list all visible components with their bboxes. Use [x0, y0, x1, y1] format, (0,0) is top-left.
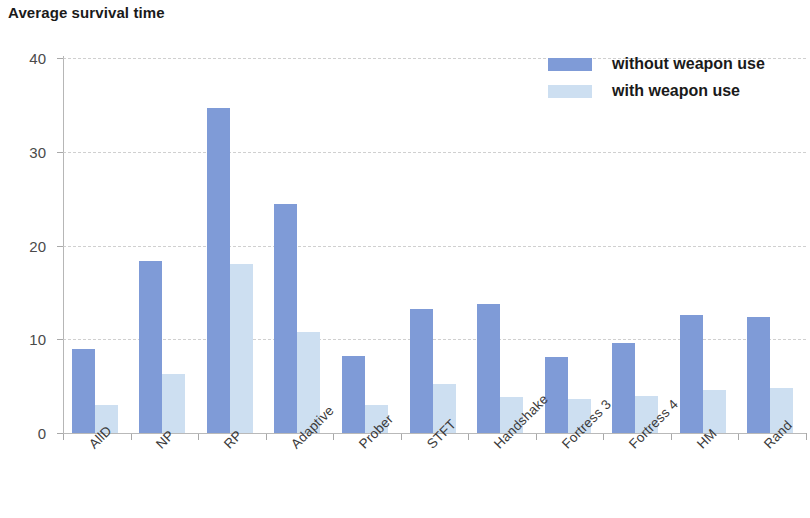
x-tick-mark-1: [131, 433, 132, 440]
bar-np-series-1[interactable]: [162, 374, 185, 433]
bar-np-series-0[interactable]: [139, 261, 162, 434]
legend-label-without-weapon-use: without weapon use: [612, 55, 765, 73]
x-tick-mark-0: [63, 433, 64, 440]
legend-item-series-1[interactable]: with weapon use: [548, 79, 765, 103]
y-tick-label-40: 40: [0, 50, 46, 67]
bar-hm-series-1[interactable]: [703, 390, 726, 433]
x-tick-mark-6: [468, 433, 469, 440]
bar-rp-series-1[interactable]: [230, 264, 253, 433]
bar-handshake-series-0[interactable]: [477, 304, 500, 433]
x-tick-mark-3: [266, 433, 267, 440]
x-tick-mark-9: [671, 433, 672, 440]
bar-rp-series-0[interactable]: [207, 108, 230, 433]
bar-stft-series-0[interactable]: [410, 309, 433, 433]
x-tick-mark-8: [603, 433, 604, 440]
plot-area: [63, 58, 806, 433]
bar-prober-series-0[interactable]: [342, 356, 365, 433]
y-tick-label-20: 20: [0, 237, 46, 254]
y-tick-label-30: 30: [0, 143, 46, 160]
x-tick-mark-10: [738, 433, 739, 440]
x-tick-mark-7: [536, 433, 537, 440]
x-tick-mark-5: [401, 433, 402, 440]
legend-swatch-icon-with-weapon-use: [548, 85, 592, 98]
chart-container: Average survival time 010203040 AllDNPRP…: [0, 0, 810, 518]
chart-legend: without weapon use with weapon use: [548, 52, 765, 106]
legend-label-with-weapon-use: with weapon use: [612, 82, 740, 100]
legend-swatch-icon-without-weapon-use: [548, 58, 592, 71]
gridline-30: [63, 152, 806, 153]
bar-rand-series-0[interactable]: [747, 317, 770, 433]
x-tick-mark-end: [806, 433, 807, 440]
gridline-20: [63, 246, 806, 247]
y-tick-label-10: 10: [0, 331, 46, 348]
bar-hm-series-0[interactable]: [680, 315, 703, 433]
bar-adaptive-series-0[interactable]: [274, 204, 297, 433]
bar-alld-series-0[interactable]: [72, 349, 95, 433]
x-tick-mark-2: [198, 433, 199, 440]
chart-title: Average survival time: [8, 4, 165, 21]
y-tick-label-0: 0: [0, 425, 46, 442]
bar-fortress-4-series-0[interactable]: [612, 343, 635, 433]
bar-fortress-3-series-0[interactable]: [545, 357, 568, 433]
legend-item-series-0[interactable]: without weapon use: [548, 52, 765, 76]
x-tick-mark-4: [333, 433, 334, 440]
